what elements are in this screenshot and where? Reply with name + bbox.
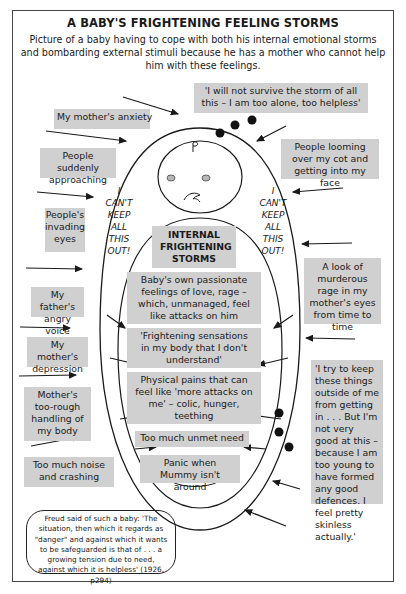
internal-passionate-feelings: Baby's own passionate feelings of love, … — [127, 272, 261, 324]
stimulus-rough-handling: Mother's too-rough handling of my body — [24, 387, 91, 441]
freud-quote: Freud said of such a baby: 'The situatio… — [26, 510, 176, 574]
stimulus-fathers-angry-voice: My father's angry voice — [31, 287, 84, 317]
internal-unmet-need: Too much unmet need — [135, 431, 249, 447]
internal-physical-pains: Physical pains that can feel like 'more … — [127, 372, 261, 424]
left-eye — [167, 175, 175, 181]
stimulus-people-looming: People looming over my cot and getting i… — [281, 139, 379, 179]
top-quote-box: 'I will not survive the storm of all thi… — [194, 83, 368, 113]
cant-keep-left: ICAN'TKEEPALLTHISOUT! — [104, 185, 134, 257]
stimulus-noise: Too much noise and crashing — [24, 457, 114, 487]
stimulus-people-approaching: People suddenly approaching — [40, 148, 116, 178]
stimulus-mothers-anxiety: My mother's anxiety — [54, 109, 150, 129]
internal-panic-mummy: Panic when Mummy isn't around — [140, 455, 240, 483]
internal-frightening-sensations: 'Frightening sensations in my body that … — [127, 328, 261, 368]
cant-keep-right: ICAN'TKEEPALLTHISOUT! — [258, 185, 288, 257]
right-eye — [202, 175, 210, 181]
stimulus-invading-eyes: People's invading eyes — [45, 208, 85, 252]
internal-heading: INTERNAL FRIGHTENING STORMS — [152, 226, 236, 268]
stimulus-murderous-rage: A look of murderous rage in my mother's … — [304, 258, 381, 324]
stimulus-mothers-depression: My mother's depression — [27, 337, 88, 367]
stimulus-try-to-keep-out: 'I try to keep these things outside of m… — [311, 360, 383, 504]
